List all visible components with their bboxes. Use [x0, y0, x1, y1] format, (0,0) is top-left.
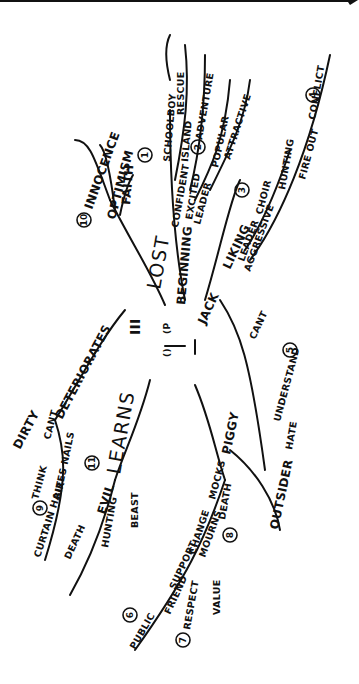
svg-text:10: 10 — [79, 214, 89, 227]
sub-label: THINK — [29, 464, 49, 501]
svg-text:6: 6 — [125, 612, 135, 618]
number-circle: 3 — [235, 183, 249, 197]
sub-label: ADVENTURE — [193, 72, 216, 141]
branch-label: LOST — [142, 233, 173, 291]
svg-text:3: 3 — [237, 187, 247, 193]
sub-label: ISLAND — [179, 120, 194, 162]
sub-label: OUTSIDER — [267, 458, 295, 530]
branch-hate: HATE UNDERSTAND CANT 5 — [247, 309, 302, 450]
svg-text:1: 1 — [140, 152, 150, 158]
svg-text:11: 11 — [87, 457, 97, 470]
number-circle: 11 — [85, 456, 99, 470]
sub-label: FIRE OUT — [296, 127, 320, 180]
center-glyph: (P — [162, 323, 172, 334]
number-circle: 9 — [33, 501, 47, 515]
branch-label: PIGGY — [219, 411, 242, 456]
svg-text:9: 9 — [35, 505, 45, 511]
corner-arrow — [346, 0, 358, 5]
branch-label: JACK — [195, 290, 222, 327]
svg-text:4: 4 — [308, 92, 318, 98]
sub-label: FAITH — [119, 164, 136, 205]
number-circle: 10 — [77, 213, 91, 227]
branch-deteriorates: DETERIORATES DIRTY THINK CANT BITES NAIL… — [10, 322, 114, 558]
mind-map-canvas: III (P () LOST INNOCENCE OPTIMISM FAITH — [0, 0, 359, 684]
svg-text:2: 2 — [193, 144, 203, 150]
sub-label: DEATH — [62, 523, 88, 561]
sub-label: RESCUE — [175, 71, 186, 115]
sub-label: BEAST — [129, 492, 140, 528]
sub-label: CANT — [247, 309, 270, 341]
center-node: III (P () — [127, 318, 195, 357]
number-circle: 8 — [223, 528, 237, 542]
center-glyph: III — [127, 318, 143, 335]
branch-piggy: PIGGY MOCKS CHANGE SUPPORT PUBLIC FRIEND… — [123, 411, 296, 651]
number-circle: 1 — [138, 148, 152, 162]
branch-label: HATE — [283, 420, 299, 450]
sub-label: DIRTY — [10, 408, 42, 451]
svg-text:8: 8 — [225, 532, 235, 538]
center-glyph: () — [162, 348, 172, 357]
number-circle: 7 — [176, 633, 190, 647]
branch-label: BEGINNING — [174, 226, 195, 306]
sub-label: UNDERSTAND — [271, 346, 301, 422]
branch-jack: JACK LIKING LEADER CHOIR AGGRESSIVE HUNT… — [195, 64, 327, 327]
svg-text:7: 7 — [178, 637, 188, 643]
branch-learns: LEARNS EVIL DEATH HUNTING BEAST 11 — [62, 389, 140, 561]
number-circle: 6 — [123, 608, 137, 622]
branch-label: DETERIORATES — [52, 322, 114, 421]
sub-label: VALUE — [211, 580, 222, 615]
svg-text:5: 5 — [285, 347, 295, 353]
